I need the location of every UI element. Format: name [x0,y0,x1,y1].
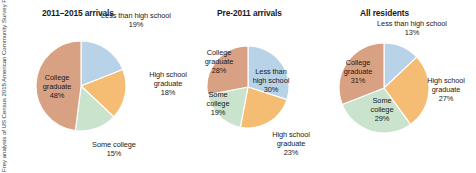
label-some-college: Some college 15% [66,140,162,158]
label-less-than-high-school: Less than high school 13% [348,19,476,37]
label-percent: 19% [194,108,242,117]
label-percent: 29% [356,114,408,123]
label-college-graduate: College graduate 28% [191,48,247,76]
label-text-line1: College [207,48,232,57]
label-text-line1: High school [272,130,310,139]
label-text-line2: graduate [205,57,234,66]
label-text: Less than high school [101,11,171,20]
label-percent: 27% [416,94,476,103]
label-text-line1: College [346,58,371,67]
label-less-than-high-school: Less than high school 19% [74,11,198,29]
label-percent: 31% [330,76,386,85]
label-percent: 23% [256,148,326,157]
label-text-line1: Less than [255,67,286,76]
label-text-line2: graduate [344,67,373,76]
label-percent: 48% [28,91,86,100]
label-text-line2: high school [253,76,290,85]
label-percent: 30% [242,85,300,94]
panel-title: All residents [360,8,409,18]
label-percent: 28% [191,66,247,75]
label-some-college: Some college 19% [194,90,242,118]
label-percent: 15% [66,149,162,158]
label-college-graduate: College graduate 31% [330,58,386,86]
pie-chart-panel-2011-2015-arrivals: 2011–2015 arrivals Less than high school… [18,0,198,173]
label-text-line2: graduate [432,85,461,94]
label-less-than-high-school: Less than high school 30% [242,67,300,95]
label-text-line2: graduate [154,79,183,88]
source-credit-line-1: Source: William H. Frey analysis of US C… [0,83,9,173]
source-credit-line-2: American Community Survey Public Use Mic… [0,0,9,82]
label-text-line2: graduate [43,82,72,91]
label-high-school-graduate: High school graduate 27% [416,76,476,104]
pie-chart-panel-all-residents: All residents Less than high school 13% … [320,0,476,173]
label-high-school-graduate: High school graduate 23% [256,130,326,158]
label-college-graduate: College graduate 48% [28,73,86,101]
label-text-line1: High school [149,70,187,79]
label-text-line1: High school [427,76,465,85]
panel-title: Pre-2011 arrivals [217,8,282,18]
label-text-line2: college [371,105,394,114]
label-text-line2: graduate [277,139,306,148]
pie-chart-panel-pre-2011-arrivals: Pre-2011 arrivals Less than high school … [186,0,326,173]
label-text: Some college [92,140,136,149]
label-percent: 13% [348,28,476,37]
label-text: Less than high school [377,19,447,28]
label-percent: 19% [74,20,198,29]
label-some-college: Some college 29% [356,96,408,124]
label-text-line1: Some [373,96,392,105]
label-text-line2: college [207,99,230,108]
label-text-line1: College [45,73,70,82]
label-text-line1: Some [209,90,228,99]
